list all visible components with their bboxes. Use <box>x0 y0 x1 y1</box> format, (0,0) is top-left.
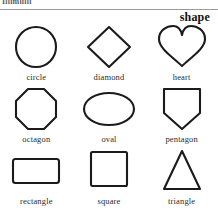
triangle-shape-icon <box>145 148 218 194</box>
page-title: shape <box>180 10 210 24</box>
octagon-shape-icon <box>0 86 73 132</box>
shape-label: square <box>97 196 120 206</box>
shape-label: circle <box>26 72 46 82</box>
running-head-fragment: Illlmlllll <box>2 0 46 6</box>
square-shape-icon <box>73 148 146 194</box>
shape-label: rectangle <box>20 196 53 206</box>
shape-cell-circle: circle <box>0 24 73 86</box>
shape-cell-octagon: octagon <box>0 86 73 148</box>
shape-cell-square: square <box>73 148 146 210</box>
oval-shape-icon <box>73 86 146 132</box>
diamond-shape-icon <box>73 24 146 70</box>
shape-cell-pentagon: pentagon <box>145 86 218 148</box>
shape-cell-diamond: diamond <box>73 24 146 86</box>
shape-cell-oval: oval <box>73 86 146 148</box>
shape-label: oval <box>101 134 116 144</box>
rectangle-shape-icon <box>0 148 73 194</box>
heart-shape-icon <box>145 24 218 70</box>
shape-grid: circle diamond heart <box>0 24 218 210</box>
shape-label: diamond <box>94 72 125 82</box>
circle-shape-icon <box>0 24 73 70</box>
shape-label: triangle <box>168 196 195 206</box>
shape-cell-rectangle: rectangle <box>0 148 73 210</box>
pentagon-shape-icon <box>145 86 218 132</box>
shape-label: heart <box>173 72 191 82</box>
shape-reference-page: Illlmlllll shape circle diamond <box>0 0 218 213</box>
shape-label: octagon <box>22 134 50 144</box>
shape-label: pentagon <box>165 134 197 144</box>
shape-cell-heart: heart <box>145 24 218 86</box>
shape-cell-triangle: triangle <box>145 148 218 210</box>
